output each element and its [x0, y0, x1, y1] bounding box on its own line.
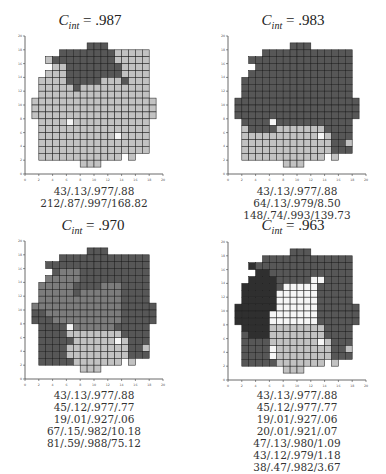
svg-text:20: 20	[221, 240, 225, 244]
svg-text:12: 12	[309, 178, 313, 182]
svg-text:12: 12	[18, 294, 22, 298]
svg-text:18: 18	[221, 48, 225, 52]
svg-text:6: 6	[268, 384, 270, 388]
svg-text:4: 4	[52, 178, 54, 182]
caption-line: 64/.13/.979/8.50	[237, 197, 357, 209]
caption-line: 43/.13/.977/.88	[237, 389, 357, 401]
svg-text:20: 20	[161, 178, 165, 182]
svg-text:6: 6	[268, 178, 270, 182]
svg-text:16: 16	[133, 178, 137, 182]
svg-text:12: 12	[18, 89, 22, 93]
svg-text:12: 12	[106, 383, 110, 387]
svg-text:20: 20	[364, 178, 368, 182]
svg-text:6: 6	[20, 336, 22, 340]
svg-text:20: 20	[364, 384, 368, 388]
svg-text:14: 14	[18, 75, 22, 79]
svg-text:10: 10	[221, 103, 225, 107]
panel-title: Cint = .963	[253, 217, 333, 236]
svg-text:6: 6	[65, 383, 67, 387]
svg-text:4: 4	[223, 350, 225, 354]
svg-text:18: 18	[18, 253, 22, 257]
svg-text:8: 8	[79, 383, 81, 387]
caption-line: 43/.13/.977/.88	[34, 389, 154, 401]
caption-line: 43/.13/.977/.88	[34, 185, 154, 197]
svg-text:12: 12	[309, 384, 313, 388]
svg-text:14: 14	[120, 178, 124, 182]
svg-text:2: 2	[241, 384, 243, 388]
svg-text:4: 4	[20, 349, 22, 353]
svg-text:4: 4	[52, 383, 54, 387]
svg-text:2: 2	[20, 158, 22, 162]
svg-text:20: 20	[18, 239, 22, 243]
svg-text:0: 0	[227, 178, 229, 182]
svg-text:6: 6	[223, 131, 225, 135]
svg-text:2: 2	[223, 158, 225, 162]
svg-text:0: 0	[20, 377, 22, 381]
svg-text:14: 14	[221, 281, 225, 285]
heatmap-panel-3: 0022446688101012121414161618182020	[18, 239, 165, 387]
svg-text:10: 10	[295, 178, 299, 182]
svg-text:10: 10	[295, 384, 299, 388]
heatmap-panel-2: 0022446688101012121414161618182020	[221, 34, 368, 182]
caption-line: 212/.87/.997/168.82	[34, 197, 154, 209]
caption-line: 81/.59/.988/75.12	[34, 437, 154, 449]
heatmap-panel-1: 0022446688101012121414161618182020	[18, 34, 165, 182]
svg-text:8: 8	[79, 178, 81, 182]
svg-text:14: 14	[323, 384, 327, 388]
svg-text:8: 8	[223, 117, 225, 121]
caption-line: 67/.15/.982/10.18	[34, 425, 154, 437]
svg-text:14: 14	[18, 280, 22, 284]
svg-text:16: 16	[221, 268, 225, 272]
caption-line: 45/.12/.977/.77	[237, 401, 357, 413]
svg-text:16: 16	[133, 383, 137, 387]
svg-text:4: 4	[255, 178, 257, 182]
svg-text:10: 10	[221, 309, 225, 313]
panel-title: Cint = .983	[253, 12, 333, 31]
svg-text:0: 0	[227, 384, 229, 388]
svg-text:0: 0	[223, 172, 225, 176]
svg-text:12: 12	[106, 178, 110, 182]
caption-line: 38/.47/.982/3.67	[237, 461, 357, 473]
panel-caption: 43/.13/.977/.88 45/.12/.977/.77 19/.01/.…	[34, 389, 154, 449]
svg-text:14: 14	[323, 178, 327, 182]
svg-text:20: 20	[18, 34, 22, 38]
svg-text:16: 16	[336, 178, 340, 182]
svg-text:8: 8	[282, 178, 284, 182]
svg-text:8: 8	[20, 322, 22, 326]
panel-title: Cint = .970	[53, 217, 133, 236]
svg-text:6: 6	[20, 131, 22, 135]
svg-text:8: 8	[282, 384, 284, 388]
svg-text:0: 0	[24, 178, 26, 182]
panel-caption: 43/.13/.977/.88 45/.12/.977/.77 19/.01/.…	[237, 389, 357, 473]
heatmap-panel-4: 0022446688101012121414161618182020	[221, 240, 368, 388]
svg-text:2: 2	[38, 383, 40, 387]
svg-text:20: 20	[221, 34, 225, 38]
svg-text:16: 16	[18, 62, 22, 66]
svg-text:16: 16	[18, 267, 22, 271]
svg-text:0: 0	[20, 172, 22, 176]
svg-text:10: 10	[18, 308, 22, 312]
svg-text:6: 6	[65, 178, 67, 182]
svg-text:6: 6	[223, 337, 225, 341]
caption-line: 47/.13/.980/1.09	[237, 437, 357, 449]
panel-caption: 43/.13/.977/.88 212/.87/.997/168.82	[34, 185, 154, 209]
svg-text:8: 8	[223, 323, 225, 327]
svg-text:8: 8	[20, 117, 22, 121]
svg-text:4: 4	[223, 144, 225, 148]
svg-text:10: 10	[92, 178, 96, 182]
panel-title: Cint = .987	[50, 12, 130, 31]
svg-text:18: 18	[350, 384, 354, 388]
svg-text:10: 10	[18, 103, 22, 107]
svg-text:16: 16	[336, 384, 340, 388]
svg-text:18: 18	[350, 178, 354, 182]
svg-text:2: 2	[38, 178, 40, 182]
caption-line: 20/.01/.921/.07	[237, 425, 357, 437]
svg-text:2: 2	[223, 364, 225, 368]
svg-text:10: 10	[92, 383, 96, 387]
panel-caption: 43/.13/.977/.88 64/.13/.979/8.50 148/.74…	[237, 185, 357, 221]
svg-text:18: 18	[147, 383, 151, 387]
svg-text:2: 2	[20, 363, 22, 367]
svg-text:14: 14	[221, 75, 225, 79]
caption-line: 19/.01/.927/.06	[237, 413, 357, 425]
svg-text:12: 12	[221, 89, 225, 93]
